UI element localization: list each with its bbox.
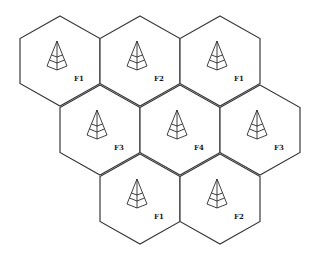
- frequency-label: F2: [154, 74, 164, 83]
- frequency-label: F3: [114, 143, 124, 152]
- frequency-label: F1: [154, 212, 164, 221]
- frequency-label: F1: [74, 74, 84, 83]
- frequency-label: F1: [234, 74, 244, 83]
- frequency-label: F4: [194, 143, 204, 152]
- cellular-hex-diagram: F1F2F1F3F4F3F1F2: [0, 0, 316, 255]
- frequency-label: F2: [234, 212, 244, 221]
- frequency-label: F3: [274, 143, 284, 152]
